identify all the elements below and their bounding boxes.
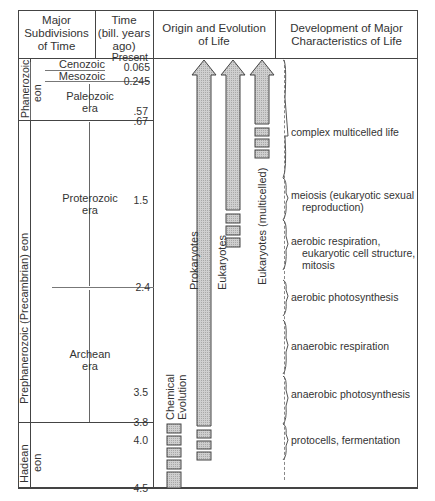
brace-icon — [283, 320, 288, 374]
brace-icon — [283, 60, 288, 178]
brace-icon — [283, 220, 288, 270]
tick-38: 3.8 — [98, 416, 148, 428]
label-eukaryotes-multicelled: Eukaryotes (multicelled) — [256, 168, 268, 285]
lineage-label: Chemical — [164, 374, 176, 420]
header-line: Development of Major — [275, 22, 418, 35]
characteristic-line: aerobic respiration, — [291, 235, 415, 247]
characteristic-line: aerobic photosynthesis — [291, 291, 398, 303]
eukaryotes-multicelled-arrow — [250, 60, 274, 158]
characteristic-complex-multicelled: complex multicelled life — [291, 126, 399, 138]
tick-0065: 0.065 — [98, 61, 150, 73]
tick-40: 4.0 — [98, 434, 148, 446]
characteristic-line: anaerobic respiration — [291, 340, 389, 352]
eon-prephanerozoic: Prephanerozoic (Precambrian) eon — [18, 233, 30, 404]
header-line: Time — [95, 14, 153, 27]
eukaryotes-arrow — [221, 60, 245, 247]
tick-15: 1.5 — [98, 194, 148, 206]
header-line: (bill. years — [95, 27, 153, 40]
characteristic-line: eukaryotic cell structure, — [291, 247, 415, 259]
tick-067: .67 — [98, 115, 148, 127]
header-line: Origin and Evolution — [153, 22, 275, 35]
brace-icon — [283, 376, 288, 424]
brace-icon — [283, 178, 288, 220]
eon-label: Phanerozoic — [19, 60, 31, 118]
eon-hadean: Hadean — [18, 444, 30, 483]
eon-label: Prephanerozoic (Precambrian) eon — [18, 233, 30, 404]
brace-group — [280, 58, 292, 488]
characteristic-line: anaerobic photosynthesis — [291, 388, 410, 400]
lineage-label: Eukaryotes — [216, 235, 228, 290]
header-development: Development of Major Characteristics of … — [275, 22, 418, 48]
tick-24: 2.4 — [98, 281, 150, 293]
characteristic-meiosis: meiosis (eukaryotic sexual reproduction) — [291, 189, 414, 213]
characteristic-line: reproduction) — [291, 201, 414, 213]
eon-hadean-suffix: eon — [31, 454, 43, 472]
characteristic-line: mitosis — [291, 259, 415, 271]
era-archean: Archean era — [55, 348, 125, 372]
era-label: Paleozoic — [55, 90, 125, 102]
eon-phanerozoic-suffix: eon — [31, 84, 43, 102]
brace-icon — [283, 280, 288, 316]
eon-label: eon — [31, 84, 43, 102]
characteristic-aerobic-photosynthesis: aerobic photosynthesis — [291, 291, 398, 303]
bottom-line — [18, 488, 418, 489]
characteristic-protocells: protocells, fermentation — [291, 434, 400, 446]
lineage-label: Evolution — [176, 374, 188, 420]
characteristic-line: complex multicelled life — [291, 126, 399, 138]
eon-label: eon — [31, 454, 43, 472]
header-line: Major — [18, 14, 95, 27]
tick-0245: 0.245 — [98, 75, 150, 87]
brace-icon — [283, 424, 288, 460]
lineage-label: Prokaryotes — [188, 231, 200, 290]
characteristic-line: meiosis (eukaryotic sexual — [291, 189, 414, 201]
chemical-evolution-blocks — [167, 424, 181, 488]
eon-phanerozoic: Phanerozoic — [19, 60, 31, 118]
lineage-label: Eukaryotes (multicelled) — [256, 168, 268, 285]
label-chemical-evolution: Chemical Evolution — [164, 374, 188, 420]
header-time: Time (bill. years ago) — [95, 14, 153, 53]
label-prokaryotes: Prokaryotes — [188, 231, 200, 290]
eon-label: Hadean — [18, 444, 30, 483]
header-line: Subdivisions — [18, 27, 95, 40]
tick-35: 3.5 — [98, 386, 148, 398]
header-origin: Origin and Evolution of Life — [153, 22, 275, 48]
header-line: of Time — [18, 40, 95, 53]
characteristic-anaerobic-respiration: anaerobic respiration — [291, 340, 389, 352]
characteristic-aerobic-respiration: aerobic respiration, eukaryotic cell str… — [291, 235, 415, 271]
header-line: Characteristics of Life — [275, 35, 418, 48]
era-label: era — [55, 360, 125, 372]
characteristic-anaerobic-photosynthesis: anaerobic photosynthesis — [291, 388, 410, 400]
era-label: Archean — [55, 348, 125, 360]
label-eukaryotes: Eukaryotes — [216, 235, 228, 290]
header-line: of Life — [153, 35, 275, 48]
characteristic-line: protocells, fermentation — [291, 434, 400, 446]
eon-column-divider — [30, 58, 31, 488]
header-subdivisions: Major Subdivisions of Time — [18, 14, 95, 53]
